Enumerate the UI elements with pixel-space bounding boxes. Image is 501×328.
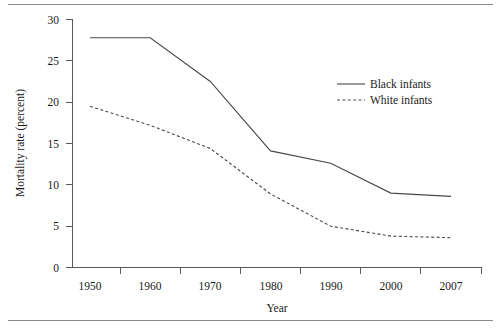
y-tick-label-10: 10 [48,179,60,191]
x-tick-label-1960: 1960 [139,280,162,292]
x-tick-label-2000: 2000 [380,280,403,292]
y-tick-label-15: 15 [48,138,60,150]
x-axis-tick-labels: 1950 1960 1970 1980 1990 2000 2007 [79,280,463,292]
y-tick-label-20: 20 [48,96,60,108]
x-tick-label-1950: 1950 [79,280,102,292]
chart-figure: 30 25 20 15 10 5 0 1950 1960 1970 1980 1… [0,0,501,328]
legend-label-black-infants: Black infants [370,78,432,90]
y-tick-label-25: 25 [48,55,60,67]
x-tick-label-1990: 1990 [320,280,343,292]
series-line-white-infants [90,106,451,237]
legend-label-white-infants: White infants [370,94,433,106]
y-tick-label-30: 30 [48,14,60,26]
y-tick-label-0: 0 [53,262,59,274]
line-chart-canvas: 30 25 20 15 10 5 0 1950 1960 1970 1980 1… [0,0,501,328]
series-line-black-infants [90,38,451,197]
x-axis-ticks [121,268,482,274]
y-axis-title: Mortality rate (percent) [14,89,27,197]
x-tick-label-1980: 1980 [260,280,283,292]
y-axis-ticks [66,20,72,268]
y-tick-label-5: 5 [53,220,59,232]
y-axis-tick-labels: 30 25 20 15 10 5 0 [48,14,60,274]
x-tick-label-2007: 2007 [440,280,463,292]
chart-legend: Black infants White infants [337,78,433,106]
x-axis-title: Year [266,302,287,314]
x-tick-label-1970: 1970 [199,280,222,292]
